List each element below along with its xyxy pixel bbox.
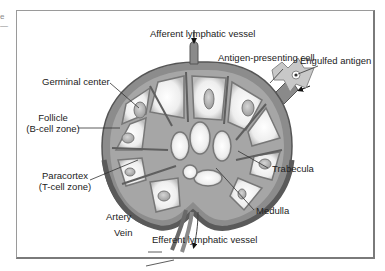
engulfed-antigen-dot bbox=[294, 73, 297, 76]
label-paracortex-line-2: (T-cell zone) bbox=[38, 181, 92, 192]
label-follicle: Follicle (B-cell zone) bbox=[26, 112, 80, 134]
label-paracortex: Paracortex (T-cell zone) bbox=[38, 170, 92, 192]
label-efferent-lymphatic-vessel: Efferent lymphatic vessel bbox=[152, 234, 257, 245]
label-afferent-lymphatic-vessel: Afferent lymphatic vessel bbox=[150, 28, 255, 39]
label-follicle-line-2: (B-cell zone) bbox=[26, 123, 80, 134]
label-paracortex-line-1: Paracortex bbox=[38, 170, 92, 181]
label-germinal-center: Germinal center bbox=[42, 76, 110, 87]
label-follicle-line-1: Follicle bbox=[26, 112, 80, 123]
label-vein: Vein bbox=[114, 227, 133, 238]
label-medulla: Medulla bbox=[256, 205, 289, 216]
lymph-node-illustration bbox=[0, 0, 385, 271]
label-engulfed-antigen: Engulfed antigen bbox=[300, 55, 371, 66]
label-trabecula: Trabecula bbox=[272, 163, 314, 174]
label-artery: Artery bbox=[106, 211, 131, 222]
